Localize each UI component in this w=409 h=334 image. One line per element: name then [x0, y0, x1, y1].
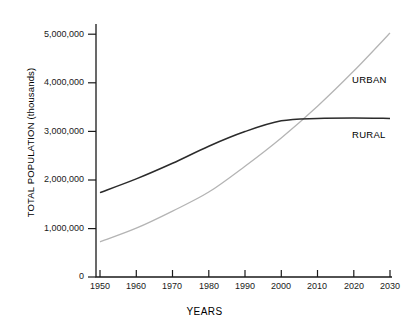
series-label-rural: RURAL — [352, 129, 386, 140]
y-axis-title: TOTAL POPULATION (thousands) — [25, 53, 36, 233]
x-axis-ticks — [100, 270, 390, 277]
y-axis-ticks — [88, 34, 96, 277]
x-tick-label-2030: 2030 — [369, 282, 409, 291]
series-line-rural — [100, 118, 390, 193]
x-tick-label-1970: 1970 — [151, 282, 193, 291]
x-tick-label-2010: 2010 — [296, 282, 338, 291]
population-line-chart: 5,000,000 4,000,000 3,000,000 2,000,000 … — [0, 0, 409, 334]
y-tick-label-5000000: 5,000,000 — [14, 30, 84, 39]
x-axis-title: YEARS — [0, 306, 409, 317]
series-line-urban — [100, 33, 390, 242]
y-tick-label-0: 0 — [14, 272, 84, 281]
axis-spines — [96, 24, 392, 277]
series-label-urban: URBAN — [352, 74, 387, 85]
